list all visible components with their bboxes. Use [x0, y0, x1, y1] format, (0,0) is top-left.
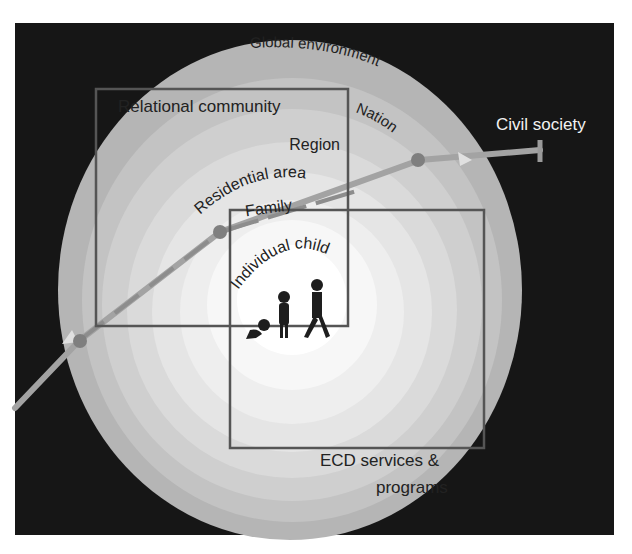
- node-right: [411, 153, 425, 167]
- label-region: Region: [289, 136, 340, 153]
- label-ecd-services-line2: programs: [376, 478, 448, 497]
- node-center: [213, 225, 227, 239]
- ecd-ecological-diagram: Global environment Nation Relational com…: [0, 0, 632, 554]
- node-left: [73, 334, 87, 348]
- label-civil-society: Civil society: [496, 115, 586, 134]
- label-relational-community: Relational community: [118, 97, 281, 116]
- label-ecd-services-line1: ECD services &: [320, 451, 440, 470]
